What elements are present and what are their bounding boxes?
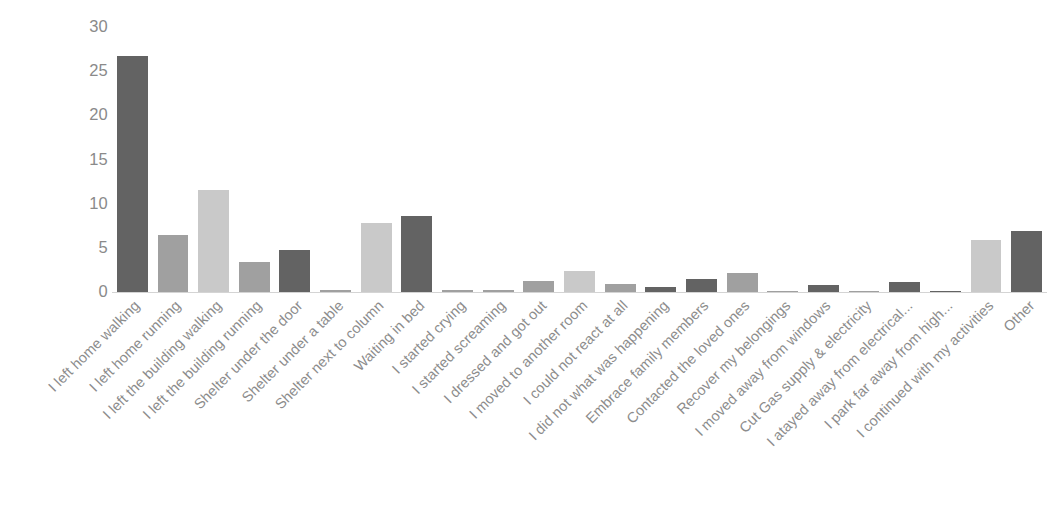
- bar-slot: [722, 27, 763, 292]
- y-tick-label: 20: [62, 106, 108, 123]
- bar-slot: [275, 27, 316, 292]
- bar-slot: [803, 27, 844, 292]
- y-tick-label: 30: [62, 18, 108, 35]
- bar[interactable]: [889, 282, 920, 292]
- bar[interactable]: [1011, 231, 1042, 292]
- bar[interactable]: [198, 190, 229, 292]
- bar-slot: [844, 27, 885, 292]
- bar[interactable]: [523, 281, 554, 292]
- y-tick-label: 5: [62, 239, 108, 256]
- y-tick-label: 15: [62, 151, 108, 168]
- bar[interactable]: [808, 285, 839, 292]
- bar[interactable]: [117, 56, 148, 292]
- bar[interactable]: [279, 250, 310, 292]
- bar-slot: [966, 27, 1007, 292]
- bar-slot: [1006, 27, 1047, 292]
- bar-slot: [478, 27, 519, 292]
- bar[interactable]: [158, 235, 189, 292]
- bar[interactable]: [564, 271, 595, 292]
- x-axis-labels: I left home walkingI left home runningI …: [112, 292, 1047, 516]
- y-axis: 051015202530: [62, 0, 108, 516]
- bar[interactable]: [361, 223, 392, 292]
- bar-chart: 051015202530 I left home walkingI left h…: [0, 0, 1064, 516]
- bar-slot: [437, 27, 478, 292]
- bar-slot: [112, 27, 153, 292]
- bar[interactable]: [401, 216, 432, 292]
- y-tick-label: 25: [62, 62, 108, 79]
- bar-slot: [640, 27, 681, 292]
- y-tick-label: 10: [62, 195, 108, 212]
- bar-slot: [315, 27, 356, 292]
- x-axis-tick-label: Other: [1001, 298, 1038, 335]
- bar-slot: [884, 27, 925, 292]
- bar-slot: [234, 27, 275, 292]
- bar[interactable]: [727, 273, 758, 292]
- bar-slot: [925, 27, 966, 292]
- bars-layer: [112, 27, 1047, 292]
- bar-slot: [153, 27, 194, 292]
- bar[interactable]: [971, 240, 1002, 292]
- bar-slot: [519, 27, 560, 292]
- bar-slot: [600, 27, 641, 292]
- bar-slot: [356, 27, 397, 292]
- bar[interactable]: [686, 279, 717, 292]
- bar-slot: [762, 27, 803, 292]
- bar-slot: [681, 27, 722, 292]
- bar-slot: [193, 27, 234, 292]
- plot-area: [112, 27, 1047, 292]
- bar-slot: [397, 27, 438, 292]
- bar[interactable]: [605, 284, 636, 292]
- bar[interactable]: [239, 262, 270, 292]
- bar-slot: [559, 27, 600, 292]
- y-tick-label: 0: [62, 283, 108, 300]
